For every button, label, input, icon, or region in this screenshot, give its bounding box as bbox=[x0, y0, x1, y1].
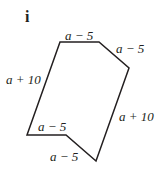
label-right: a + 10 bbox=[119, 110, 154, 123]
label-top-right: a − 5 bbox=[116, 42, 144, 55]
label-bottom-notch: a − 5 bbox=[50, 150, 78, 163]
label-top: a − 5 bbox=[65, 29, 93, 42]
label-bottom-left: a − 5 bbox=[38, 120, 66, 133]
label-left: a + 10 bbox=[6, 73, 41, 86]
